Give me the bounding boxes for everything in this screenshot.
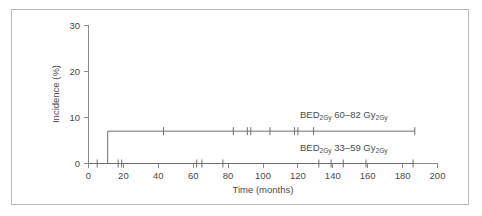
x-tick-label-160: 160	[360, 170, 376, 181]
series-label-low: BED2Gy 33–59 Gy2Gy	[300, 142, 388, 155]
series-low-dose	[89, 160, 415, 168]
y-axis-title: Incidence (%)	[50, 65, 61, 123]
y-tick-label-30: 30	[69, 20, 80, 31]
x-tick-label-100: 100	[255, 170, 271, 181]
incidence-chart-svg: 30 20 10 0 Incidence (%) 0	[0, 0, 482, 216]
curve-label-high-range: 60–82 Gy	[332, 109, 376, 120]
x-tick-label-200: 200	[430, 170, 446, 181]
curve-label-low-dose: BED2Gy 33–59 Gy2Gy	[300, 142, 388, 155]
curve-label-high-dose: BED2Gy 60–82 Gy2Gy	[300, 109, 388, 122]
y-axis: 30 20 10 0 Incidence (%)	[50, 20, 89, 169]
x-tick-label-60: 60	[188, 170, 199, 181]
x-tick-label-180: 180	[395, 170, 411, 181]
curve-label-low-prefix: BED	[300, 142, 320, 153]
series-label-high: BED2Gy 60–82 Gy2Gy	[300, 109, 388, 122]
curve-label-high-prefix: BED	[300, 109, 320, 120]
curve-label-low-sub2: 2Gy	[375, 147, 388, 155]
curve-label-low-sub1: 2Gy	[320, 147, 333, 155]
x-tick-label-20: 20	[118, 170, 129, 181]
x-axis-title: Time (months)	[233, 184, 294, 195]
y-tick-label-20: 20	[69, 66, 80, 77]
x-tick-label-80: 80	[223, 170, 234, 181]
curve-label-low-range: 33–59 Gy	[332, 142, 376, 153]
curve-label-high-sub1: 2Gy	[320, 114, 333, 122]
x-tick-label-120: 120	[290, 170, 306, 181]
figure-container: 30 20 10 0 Incidence (%) 0	[0, 0, 482, 216]
x-tick-label-40: 40	[153, 170, 164, 181]
y-tick-label-10: 10	[69, 112, 80, 123]
x-axis: 0 20 40 60 80 100 120 140 160 180 200 Ti…	[86, 164, 446, 196]
x-tick-label-140: 140	[325, 170, 341, 181]
x-tick-label-0: 0	[86, 170, 91, 181]
curve-label-high-sub2: 2Gy	[375, 114, 388, 122]
chart-plot-area: 30 20 10 0 Incidence (%) 0	[0, 0, 482, 216]
y-tick-label-0: 0	[75, 158, 80, 169]
